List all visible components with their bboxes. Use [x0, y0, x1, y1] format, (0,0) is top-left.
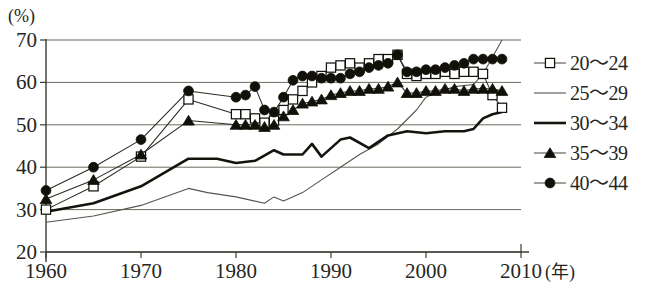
x-tick-label: 2000 [405, 259, 447, 283]
marker-filled-circle [241, 90, 251, 100]
marker-filled-circle [431, 65, 441, 75]
marker-filled-circle [307, 71, 317, 81]
x-tick-label: 1960 [25, 259, 67, 283]
legend-item-label: 35～39 [567, 143, 628, 163]
marker-filled-circle [41, 186, 51, 196]
legend-item-40～44[interactable]: 40～44 [533, 172, 655, 193]
marker-filled-circle [260, 105, 270, 115]
x-tick-label: 1990 [310, 259, 352, 283]
y-tick-label: 70 [16, 28, 37, 52]
marker-open-square [469, 67, 478, 76]
legend-item-30～34[interactable]: 30～34 [533, 112, 655, 133]
legend-open-square-icon [545, 58, 554, 67]
marker-open-square [497, 103, 506, 112]
marker-filled-circle [231, 92, 241, 102]
marker-filled-circle [269, 107, 279, 117]
chart-container: 203040506070196019701980199020002010(%)(… [0, 0, 655, 301]
x-tick-label: 1980 [215, 259, 257, 283]
marker-filled-circle [488, 54, 498, 64]
marker-filled-circle [279, 92, 289, 102]
legend-key-thin-line-icon [533, 86, 567, 100]
marker-filled-circle [288, 75, 298, 85]
marker-open-square [326, 63, 335, 72]
marker-filled-circle [136, 135, 146, 145]
legend-item-label: 40～44 [567, 173, 628, 193]
marker-open-square [41, 205, 50, 214]
marker-open-square [241, 110, 250, 119]
x-tick-label: 2010 [500, 259, 542, 283]
marker-open-square [231, 110, 240, 119]
y-tick-label: 40 [16, 155, 37, 179]
marker-filled-circle [345, 69, 355, 79]
series-line-35～39 [46, 82, 502, 199]
marker-filled-circle [355, 67, 365, 77]
marker-filled-triangle [88, 175, 100, 185]
marker-filled-circle [421, 65, 431, 75]
marker-filled-circle [298, 71, 308, 81]
legend-key-open-square-icon [533, 56, 567, 70]
legend-item-label: 20～24 [567, 53, 628, 73]
legend-item-label: 30～34 [567, 113, 628, 133]
y-tick-label: 30 [16, 198, 37, 222]
marker-open-square [336, 61, 345, 70]
x-axis-unit-label: (年) [545, 262, 575, 283]
marker-filled-circle [250, 82, 260, 92]
marker-filled-circle [469, 54, 479, 64]
marker-filled-circle [364, 63, 374, 73]
marker-filled-circle [412, 67, 422, 77]
legend-item-35～39[interactable]: 35～39 [533, 142, 655, 163]
legend-key-filled-circle-icon [533, 176, 567, 190]
marker-filled-circle [336, 73, 346, 83]
legend-filled-circle-icon [545, 178, 555, 188]
marker-filled-triangle [183, 115, 195, 125]
marker-filled-circle [459, 58, 469, 68]
marker-filled-circle [184, 86, 194, 96]
marker-filled-circle [89, 162, 99, 172]
legend-item-25～29[interactable]: 25～29 [533, 82, 655, 103]
marker-open-square [345, 59, 354, 68]
marker-filled-circle [326, 73, 336, 83]
y-tick-label: 60 [16, 70, 37, 94]
marker-open-square [478, 69, 487, 78]
marker-filled-circle [450, 61, 460, 71]
marker-filled-circle [478, 54, 488, 64]
marker-filled-circle [497, 54, 507, 64]
marker-filled-circle [383, 58, 393, 68]
x-tick-label: 1970 [120, 259, 162, 283]
marker-filled-circle [402, 67, 412, 77]
y-axis-unit-label: (%) [8, 6, 35, 27]
legend-key-thick-line-icon [533, 116, 567, 130]
marker-filled-triangle [287, 105, 299, 115]
marker-filled-circle [374, 61, 384, 71]
chart-legend: 20～2425～2930～3435～3940～44 [533, 52, 655, 193]
marker-filled-circle [393, 50, 403, 60]
legend-item-label: 25～29 [567, 83, 628, 103]
legend-key-filled-triangle-icon [533, 146, 567, 160]
marker-filled-circle [440, 63, 450, 73]
legend-item-20～24[interactable]: 20～24 [533, 52, 655, 73]
marker-filled-circle [317, 73, 327, 83]
y-tick-label: 50 [16, 113, 37, 137]
marker-open-square [288, 95, 297, 104]
marker-open-square [298, 86, 307, 95]
